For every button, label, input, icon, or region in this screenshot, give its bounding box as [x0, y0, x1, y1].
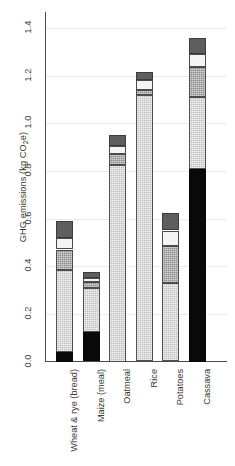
bar-segment — [162, 231, 179, 247]
y-tick-label: 0.6 — [23, 201, 33, 235]
bar-segment — [109, 154, 126, 165]
bar-segment — [136, 90, 153, 95]
bar-segment — [189, 38, 206, 55]
x-tick-label: Oatmeal — [122, 334, 132, 369]
bar — [189, 0, 206, 362]
bar-segment — [162, 246, 179, 283]
bar — [83, 0, 100, 362]
bar-segment — [109, 135, 126, 146]
bar-segment — [56, 250, 73, 270]
bar — [162, 0, 179, 362]
y-tick-label: 0.0 — [23, 344, 33, 378]
bar-segment — [189, 97, 206, 169]
bar-segment — [109, 146, 126, 154]
y-tick-label: 0.4 — [23, 248, 33, 282]
x-tick-label: Potatoes — [175, 333, 185, 369]
bar — [136, 0, 153, 362]
bar-segment — [189, 54, 206, 67]
bar-segment — [83, 282, 100, 288]
y-tick-label: 1.0 — [23, 105, 33, 139]
bar-segment — [136, 95, 153, 362]
y-tick-label: 1.2 — [23, 58, 33, 92]
y-tick-label: 0.2 — [23, 296, 33, 330]
bar-segment — [162, 213, 179, 231]
bar-segment — [83, 272, 100, 278]
x-tick-label: Wheat & rye (bread) — [69, 286, 79, 369]
x-tick-label: Maize (meal) — [96, 316, 106, 369]
y-axis-title-subscript: 2 — [22, 140, 29, 144]
ghg-emissions-stacked-bar-chart: GHG emissions (kg CO2e) 0.00.20.40.60.81… — [0, 0, 235, 466]
bar-segment — [189, 67, 206, 97]
bar-segment — [56, 238, 73, 250]
bar-segment — [136, 80, 153, 90]
bar-segment — [109, 165, 126, 362]
bar — [109, 0, 126, 362]
bar-segment — [83, 278, 100, 282]
bar-segment — [56, 221, 73, 238]
x-tick-label: Cassava — [202, 333, 212, 369]
bar-segment — [136, 72, 153, 80]
x-tick-label: Rice — [149, 351, 159, 369]
y-tick-label: 0.8 — [23, 153, 33, 187]
y-tick-label: 1.4 — [23, 10, 33, 44]
